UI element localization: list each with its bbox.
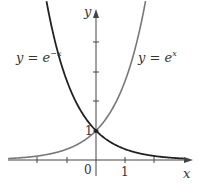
x-tick-label-one: 1	[121, 165, 129, 179]
y-tick-label-one: 1	[85, 124, 93, 138]
origin-label: 0	[84, 163, 92, 177]
label-e-to-minus-x: y = e−x	[15, 49, 62, 65]
x-axis-arrow-icon	[184, 157, 193, 163]
exponential-plot: y x 0 1 1 y = e−x y = ex	[0, 0, 198, 192]
y-axis-label: y	[83, 4, 92, 19]
curve-e-to-minus-x	[46, 1, 183, 158]
curve-e-to-x	[8, 1, 145, 158]
intersection-point	[94, 129, 98, 133]
x-axis-label: x	[183, 166, 191, 181]
label-e-to-x: y = ex	[137, 49, 177, 65]
y-axis-arrow-icon	[93, 9, 99, 18]
